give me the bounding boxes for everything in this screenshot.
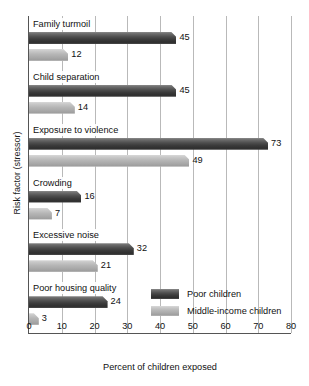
bar-wrapper: 21 (29, 260, 291, 272)
bar-wrapper: 32 (29, 243, 291, 255)
bar-poor-children (29, 243, 134, 255)
bar-wrapper: 14 (29, 102, 291, 114)
bar-wrapper: 45 (29, 32, 291, 44)
bar-value-label: 12 (71, 48, 81, 61)
category-label: Poor housing quality (32, 282, 118, 294)
bar-middle-income-children (29, 49, 68, 61)
bar-value-label: 3 (42, 312, 47, 325)
bar-group: Crowding167 (29, 177, 291, 230)
gridline-80 (291, 16, 292, 333)
category-label: Excessive noise (32, 229, 101, 241)
category-label: Family turmoil (32, 18, 92, 30)
bar-middle-income-children (29, 155, 189, 167)
y-axis-title: Risk factor (stressor) (12, 98, 22, 248)
category-label: Exposure to violence (32, 124, 120, 136)
bar-wrapper: 16 (29, 191, 291, 203)
bar-wrapper: 73 (29, 138, 291, 150)
bar-wrapper: 49 (29, 155, 291, 167)
x-tick-label-40: 40 (155, 321, 165, 331)
x-tick-label-30: 30 (122, 321, 132, 331)
legend-label-poor-children: Poor children (187, 287, 241, 301)
bar-middle-income-children (29, 260, 98, 272)
bar-poor-children (29, 32, 176, 44)
bar-value-label: 32 (137, 242, 147, 255)
bar-wrapper: 12 (29, 49, 291, 61)
bar-group: Child separation4514 (29, 71, 291, 124)
legend-label-middle-income-children: Middle-income children (187, 304, 281, 318)
bar-middle-income-children (29, 208, 52, 220)
bar-group: Exposure to violence7349 (29, 124, 291, 177)
x-tick-label-60: 60 (220, 321, 230, 331)
bar-poor-children (29, 138, 268, 150)
bar-wrapper: 45 (29, 85, 291, 97)
x-tick-label-0: 0 (26, 321, 31, 331)
bar-value-label: 24 (111, 295, 121, 308)
x-tick-label-20: 20 (89, 321, 99, 331)
bar-middle-income-children (29, 102, 75, 114)
x-tick-label-80: 80 (286, 321, 296, 331)
bar-group: Family turmoil4512 (29, 18, 291, 71)
plot-area: Family turmoil4512Child separation4514Ex… (29, 16, 291, 333)
bar-poor-children (29, 296, 108, 308)
bar-poor-children (29, 85, 176, 97)
bar-value-label: 49 (192, 154, 202, 167)
bar-value-label: 14 (78, 101, 88, 114)
legend-swatch-poor-children (151, 289, 179, 299)
x-tick-label-10: 10 (57, 321, 67, 331)
bar-group: Excessive noise3221 (29, 229, 291, 282)
legend-swatch-middle-income-children (151, 306, 179, 316)
bar-value-label: 45 (179, 31, 189, 44)
x-axis-title: Percent of children exposed (29, 362, 291, 372)
bar-chart: Risk factor (stressor) Family turmoil451… (0, 0, 309, 386)
bar-poor-children (29, 191, 81, 203)
category-label: Crowding (32, 177, 74, 189)
bar-value-label: 7 (55, 207, 60, 220)
bar-wrapper: 7 (29, 208, 291, 220)
bar-value-label: 21 (101, 259, 111, 272)
x-tick-label-50: 50 (188, 321, 198, 331)
bar-value-label: 16 (84, 190, 94, 203)
bar-value-label: 73 (271, 137, 281, 150)
category-label: Child separation (32, 71, 101, 83)
x-tick-label-70: 70 (253, 321, 263, 331)
bar-value-label: 45 (179, 84, 189, 97)
